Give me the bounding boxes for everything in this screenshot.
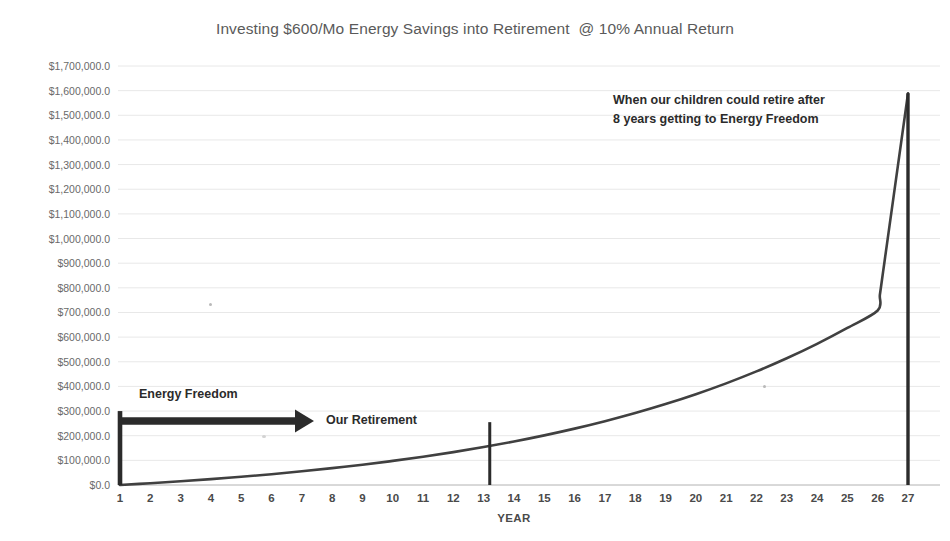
x-axis-tick-labels: 1234567891011121314151617181920212223242…: [0, 0, 950, 541]
annotation-our-retirement: Our Retirement: [326, 412, 417, 429]
x-axis-tick-label: 7: [299, 492, 305, 504]
x-axis-tick-label: 18: [629, 492, 642, 504]
x-axis-tick-label: 20: [689, 492, 702, 504]
scan-speck-mid: [262, 435, 266, 438]
x-axis-tick-label: 11: [417, 492, 429, 504]
x-axis-tick-label: 15: [538, 492, 551, 504]
x-axis-tick-label: 16: [568, 492, 581, 504]
x-axis-tick-label: 23: [780, 492, 793, 504]
x-axis-tick-label: 1: [117, 492, 123, 504]
x-axis-tick-label: 3: [177, 492, 183, 504]
x-axis-tick-label: 17: [599, 492, 612, 504]
x-axis-tick-label: 25: [841, 492, 854, 504]
x-axis-tick-label: 24: [811, 492, 824, 504]
x-axis-tick-label: 12: [447, 492, 460, 504]
annotation-children-retire: When our children could retire after 8 y…: [613, 91, 825, 129]
annotation-energy-freedom: Energy Freedom: [139, 386, 238, 403]
x-axis-tick-label: 27: [902, 492, 915, 504]
x-axis-tick-label: 13: [477, 492, 490, 504]
x-axis-tick-label: 26: [871, 492, 884, 504]
x-axis-tick-label: 19: [659, 492, 672, 504]
x-axis-tick-label: 9: [359, 492, 365, 504]
x-axis-tick-label: 4: [208, 492, 214, 504]
x-axis-tick-label: 21: [720, 492, 733, 504]
x-axis-title: YEAR: [497, 512, 531, 524]
x-axis-tick-label: 5: [238, 492, 244, 504]
scan-speck-right: [763, 385, 766, 388]
x-axis-tick-label: 14: [508, 492, 521, 504]
x-axis-tick-label: 6: [268, 492, 274, 504]
x-axis-tick-label: 22: [750, 492, 763, 504]
x-axis-tick-label: 2: [147, 492, 153, 504]
x-axis-tick-label: 10: [386, 492, 399, 504]
scan-speck-left: [209, 303, 212, 306]
x-axis-tick-label: 8: [329, 492, 335, 504]
retirement-growth-chart: Investing $600/Mo Energy Savings into Re…: [0, 0, 950, 541]
